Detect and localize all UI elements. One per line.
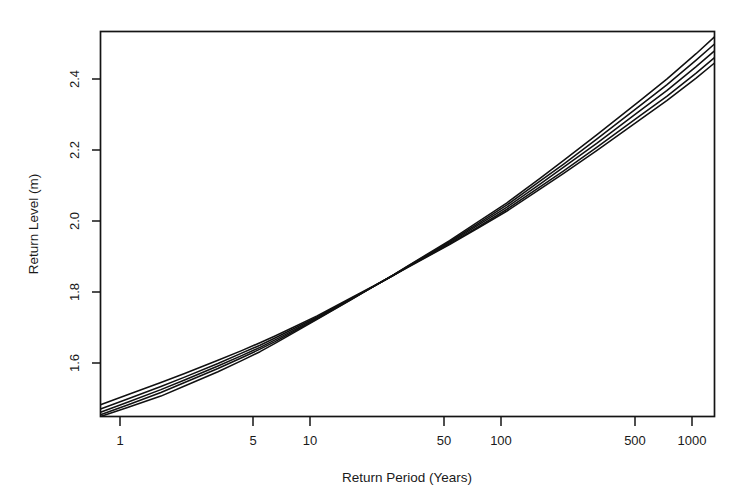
y-tick-label: 2.2: [67, 141, 82, 159]
return-level-curves: [101, 37, 715, 417]
y-axis-tick-labels: 1.6 1.8 2.0 2.2 2.4: [67, 70, 82, 372]
x-tick-label: 1000: [678, 433, 707, 448]
x-tick-label: 50: [437, 433, 451, 448]
y-tick-label: 2.0: [67, 212, 82, 230]
y-tick-label: 1.6: [67, 354, 82, 372]
y-tick-label: 1.8: [67, 283, 82, 301]
x-axis-ticks: [120, 417, 692, 426]
y-tick-label: 2.4: [67, 70, 82, 88]
x-tick-label: 500: [624, 433, 646, 448]
x-tick-label: 10: [303, 433, 317, 448]
data-curve: [101, 58, 715, 409]
x-tick-label: 1: [116, 433, 123, 448]
data-curve: [101, 44, 715, 415]
x-axis-tick-labels: 1 5 10 50 100 500 1000: [116, 433, 706, 448]
y-axis-title: Return Level (m): [26, 174, 41, 275]
plot-frame: [101, 32, 715, 417]
x-axis-title: Return Period (Years): [342, 470, 472, 485]
x-tick-label: 100: [490, 433, 512, 448]
chart-canvas: 1.6 1.8 2.0 2.2 2.4 1 5 10 50 100 500 10…: [0, 0, 753, 502]
x-tick-label: 5: [249, 433, 256, 448]
y-axis-ticks: [92, 79, 100, 363]
data-curve: [101, 37, 715, 417]
data-curve: [101, 51, 715, 412]
return-level-figure: 1.6 1.8 2.0 2.2 2.4 1 5 10 50 100 500 10…: [0, 0, 753, 502]
